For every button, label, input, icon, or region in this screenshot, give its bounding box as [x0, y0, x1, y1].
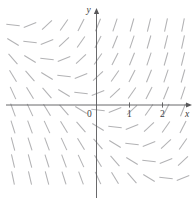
slope-segment: [179, 138, 187, 149]
slope-segment: [45, 171, 49, 184]
slope-segment: [146, 70, 151, 83]
slope-segment: [43, 88, 52, 98]
slope-segment: [23, 41, 36, 42]
origin-label: 0: [87, 109, 92, 119]
slope-segment: [12, 171, 15, 184]
slope-segment: [177, 175, 190, 180]
slope-segment: [163, 87, 168, 100]
slope-segment: [57, 75, 70, 76]
slope-segment: [142, 160, 155, 161]
axis-label-group: 0 x y: [86, 5, 191, 119]
slope-segment: [75, 106, 86, 113]
slope-segment: [77, 122, 86, 132]
slope-segment: [180, 121, 186, 133]
slope-segment: [11, 121, 15, 134]
slope-segment: [147, 36, 151, 49]
slope-segment: [126, 157, 137, 164]
slope-segment: [78, 19, 84, 31]
slope-segment: [130, 19, 134, 32]
slope-segment: [28, 121, 33, 134]
slope-segment: [110, 88, 120, 97]
slope-segment: [108, 126, 121, 127]
slope-segment: [45, 138, 50, 151]
slope-field-figure: 12 0 x y: [0, 0, 195, 206]
slope-segment: [11, 154, 14, 167]
slope-segment: [109, 140, 120, 147]
slope-segment: [181, 52, 184, 65]
slope-segment: [40, 58, 53, 59]
slope-segment: [165, 18, 168, 31]
slope-segment: [44, 121, 50, 133]
slope-field-plot: 12 0 x y: [0, 0, 195, 206]
slope-segment-group: [6, 18, 189, 184]
slope-segment: [78, 155, 84, 167]
slope-segment: [94, 53, 102, 64]
slope-segment: [59, 37, 69, 46]
slope-segment: [129, 70, 135, 82]
slope-segment: [61, 138, 67, 150]
slope-segment: [27, 104, 33, 116]
slope-segment: [42, 20, 52, 29]
slope-segment: [62, 155, 67, 168]
slope-segment: [24, 55, 35, 62]
slope-segment: [27, 87, 34, 99]
slope-segment: [182, 18, 185, 31]
slope-segment: [164, 35, 167, 48]
slope-segment: [28, 138, 32, 151]
slope-segment: [161, 139, 171, 148]
slope-segment: [60, 19, 68, 30]
slope-segment: [62, 172, 66, 185]
slope-segment: [112, 172, 119, 184]
slope-segment: [178, 156, 188, 165]
slope-segment: [144, 122, 154, 131]
slope-segment: [147, 53, 151, 66]
slope-segment: [111, 70, 119, 81]
slope-segment: [7, 38, 18, 45]
slope-segment: [162, 121, 170, 132]
slope-segment: [78, 138, 85, 150]
slope-segment: [147, 18, 150, 31]
slope-segment: [128, 87, 136, 98]
slope-segment: [93, 71, 103, 80]
slope-segment: [160, 158, 173, 163]
slope-segment: [95, 36, 101, 48]
slope-segment: [77, 36, 85, 47]
slope-segment: [11, 104, 16, 117]
slope-segment: [26, 71, 35, 81]
slope-segment: [125, 143, 138, 144]
slope-segment: [24, 22, 37, 27]
slope-segment: [112, 36, 117, 49]
slope-segment: [164, 53, 168, 66]
slope-segment: [58, 56, 71, 61]
slope-segment: [130, 36, 134, 49]
slope-segment: [181, 87, 185, 100]
slope-segment: [143, 174, 154, 181]
x-axis-tick-label: 2: [160, 109, 165, 119]
slope-segment: [61, 121, 68, 133]
slope-segment: [95, 155, 102, 167]
slope-segment: [94, 139, 103, 149]
slope-segment: [95, 172, 101, 184]
slope-segment: [79, 172, 84, 185]
slope-segment: [128, 173, 137, 183]
slope-segment: [164, 70, 168, 83]
y-axis-label: y: [86, 5, 92, 15]
x-axis-tick-label: 1: [127, 109, 132, 119]
slope-segment: [113, 19, 117, 32]
slope-segment: [28, 171, 31, 184]
slope-segment: [60, 105, 69, 115]
x-axis-arrowhead: [186, 102, 192, 107]
y-axis-arrowhead: [94, 8, 99, 14]
slope-segment: [146, 87, 152, 99]
slope-segment: [159, 177, 172, 178]
slope-segment: [58, 89, 69, 96]
slope-segment: [126, 124, 139, 129]
slope-segment: [75, 73, 88, 78]
slope-segment: [9, 54, 18, 64]
slope-segment: [6, 24, 19, 25]
slope-segment: [182, 35, 185, 48]
slope-segment: [10, 70, 17, 82]
slope-segment: [145, 104, 153, 115]
slope-segment: [41, 72, 52, 79]
slope-segment: [74, 92, 87, 93]
